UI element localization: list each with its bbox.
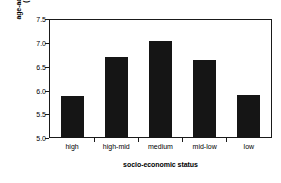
y-tick-label: 5.5 <box>28 111 46 118</box>
bar-chart-figure: age-adjusted incidence (per 100,000) 7.5… <box>0 0 281 183</box>
bar-mid-low <box>193 60 216 138</box>
x-tick-mark <box>182 138 183 142</box>
y-tick-label: 6.5 <box>28 64 46 71</box>
bar-slot <box>50 20 94 138</box>
y-axis-title-line-2: (per 100,000) <box>22 0 29 3</box>
bar-high-mid <box>105 57 128 138</box>
x-axis-title: socio-economic status <box>50 161 271 168</box>
bar-slot <box>94 20 138 138</box>
y-tick-label: 7.5 <box>28 16 46 23</box>
x-tick-mark <box>138 138 139 142</box>
x-tick-label-low: low <box>227 143 271 150</box>
y-axis-title-line-1: age-adjusted incidence <box>15 0 22 20</box>
y-tick-mark <box>45 138 49 139</box>
x-tick-label-high-mid: high-mid <box>94 143 138 150</box>
bar-slot <box>138 20 182 138</box>
x-tick-labels: high high-mid medium mid-low low <box>50 143 271 150</box>
bar-series <box>50 20 271 138</box>
bar-slot <box>183 20 227 138</box>
y-tick-label: 5.0 <box>28 135 46 142</box>
y-tick-label: 7.0 <box>28 40 46 47</box>
x-tick-label-high: high <box>50 143 94 150</box>
x-tick-label-medium: medium <box>138 143 182 150</box>
bar-high <box>61 96 84 138</box>
bar-slot <box>227 20 271 138</box>
x-tick-mark <box>94 138 95 142</box>
y-tick-label: 6.0 <box>28 88 46 95</box>
x-tick-label-mid-low: mid-low <box>183 143 227 150</box>
x-tick-mark <box>226 138 227 142</box>
bar-low <box>237 95 260 138</box>
bar-medium <box>149 41 172 138</box>
